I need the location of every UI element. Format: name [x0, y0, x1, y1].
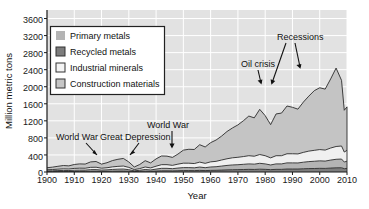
- y-tick-label-800: 800: [28, 134, 43, 144]
- annotation-world-war-1-label: World War: [56, 132, 98, 142]
- legend-swatch-industrial-minerals: [56, 63, 65, 72]
- annotation-great-depression-label: Great Depression: [100, 132, 171, 142]
- x-tick-label-1980: 1980: [255, 175, 275, 185]
- x-axis-title: Year: [187, 190, 206, 201]
- y-tick-label-3600: 3600: [23, 15, 43, 25]
- legend-swatch-recycled-metals: [56, 47, 65, 56]
- y-tick-label-2400: 2400: [23, 66, 43, 76]
- x-tick-label-2000: 2000: [310, 175, 330, 185]
- x-tick-label-1930: 1930: [119, 175, 139, 185]
- legend-label-recycled-metals: Recycled metals: [70, 47, 137, 57]
- annotation-world-war-2-label: World War: [147, 120, 189, 130]
- annotation-oil-crisis-label: Oil crisis: [241, 59, 275, 69]
- chart-legend: Primary metals Recycled metals Industria…: [51, 27, 165, 95]
- y-tick-label-2800: 2800: [23, 49, 43, 59]
- x-tick-label-1920: 1920: [91, 175, 111, 185]
- y-tick-label-1600: 1600: [23, 100, 43, 110]
- y-axis-title: Million metric tons: [3, 53, 14, 129]
- x-tick-label-1990: 1990: [282, 175, 302, 185]
- y-axis-tick-labels: 0 400 800 1200 1600 2000 2400 2800 3200 …: [23, 15, 43, 178]
- legend-label-primary-metals: Primary metals: [70, 31, 131, 41]
- x-tick-label-1910: 1910: [64, 175, 84, 185]
- legend-label-industrial-minerals: Industrial minerals: [70, 63, 144, 73]
- legend-swatch-primary-metals: [56, 31, 65, 40]
- x-tick-label-1900: 1900: [37, 175, 57, 185]
- x-tick-label-1950: 1950: [173, 175, 193, 185]
- legend-swatch-construction-materials: [56, 79, 65, 88]
- legend-label-construction-materials: Construction materials: [70, 79, 160, 89]
- x-axis-tick-labels: 1900 1910 1920 1930 1940 1950 1960 1970 …: [37, 175, 357, 185]
- x-tick-label-2010: 2010: [337, 175, 357, 185]
- y-tick-label-3200: 3200: [23, 32, 43, 42]
- x-tick-label-1960: 1960: [201, 175, 221, 185]
- x-tick-label-1970: 1970: [228, 175, 248, 185]
- y-tick-label-2000: 2000: [23, 83, 43, 93]
- y-tick-label-400: 400: [28, 152, 43, 162]
- minerals-production-area-chart: 0 400 800 1200 1600 2000 2400 2800 3200 …: [0, 0, 369, 209]
- figure-root: 0 400 800 1200 1600 2000 2400 2800 3200 …: [0, 0, 369, 209]
- x-tick-label-1940: 1940: [146, 175, 166, 185]
- annotation-recessions-label: Recessions: [277, 32, 324, 42]
- y-tick-label-1200: 1200: [23, 117, 43, 127]
